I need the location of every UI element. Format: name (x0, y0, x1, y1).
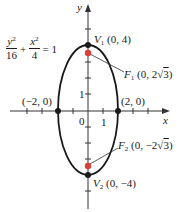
eq-x-den: 4 (32, 49, 38, 61)
f1-coords-post: ) (169, 68, 173, 80)
f2-name: F (118, 139, 125, 151)
ellipse-equation: y2 16 + x2 4 = 1 (6, 36, 57, 61)
right-point-label: (2, 0) (121, 96, 145, 107)
eq-y-exp: 2 (12, 35, 16, 43)
v2-sub: 2 (100, 183, 104, 191)
eq-equals: = 1 (43, 43, 57, 55)
focus-f1-dot (85, 50, 91, 56)
f1-sub: 1 (131, 74, 135, 82)
y-axis-arrow-icon (85, 4, 91, 12)
x-tick-label: 1 (101, 117, 107, 128)
f2-label: F2 (0, −2√3) (118, 140, 173, 153)
origin-label: 0 (79, 116, 85, 127)
v2-coords: (0, −4) (106, 177, 136, 189)
f1-coords-pre: (0, 2 (137, 68, 157, 80)
f2-leader-line (90, 148, 118, 164)
v1-label: V1 (0, 4) (94, 34, 131, 47)
eq-plus: + (20, 43, 26, 55)
f1-leader-line (90, 54, 124, 72)
v2-label: V2 (0, −4) (93, 178, 136, 191)
f2-coords-pre: (0, −2 (131, 139, 157, 151)
v1-coords: (0, 4) (107, 33, 131, 45)
point-right-dot (115, 108, 121, 114)
eq-y-den: 16 (6, 49, 17, 61)
x-axis-label: x (163, 115, 168, 126)
v1-sub: 1 (101, 39, 105, 47)
fraction-x: x2 4 (29, 36, 39, 61)
focus-f2-dot (85, 163, 91, 169)
vertex-v1-dot (85, 42, 91, 48)
f2-coords-post: ) (169, 139, 173, 151)
y-tick-label: 1 (79, 89, 85, 100)
y-axis-label: y (77, 2, 82, 13)
f1-label: F1 (0, 2√3) (124, 69, 172, 82)
left-point-label: (−2, 0) (22, 96, 52, 107)
v2-name: V (93, 177, 100, 189)
f1-name: F (124, 68, 131, 80)
vertex-v2-dot (85, 172, 91, 178)
point-left-dot (55, 108, 61, 114)
eq-x-exp: 2 (35, 35, 39, 43)
fraction-y: y2 16 (6, 36, 17, 61)
f2-sub: 2 (125, 145, 129, 153)
v1-name: V (94, 33, 101, 45)
